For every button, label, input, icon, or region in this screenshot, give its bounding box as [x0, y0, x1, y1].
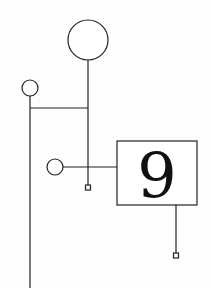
terminal-square-mid [86, 185, 91, 190]
large-circle-node [68, 20, 108, 60]
small-circle-mid-node [47, 159, 63, 175]
small-circle-left-node [22, 80, 38, 96]
box-label: 9 [137, 139, 176, 212]
diagram-canvas: 9 [0, 0, 211, 288]
diagram-svg: 9 [0, 0, 211, 288]
terminal-square-right [174, 253, 179, 258]
